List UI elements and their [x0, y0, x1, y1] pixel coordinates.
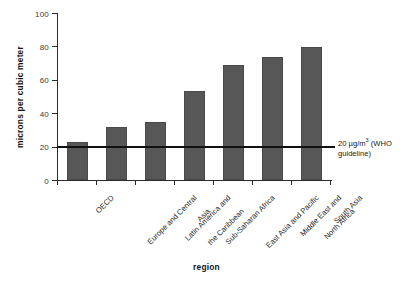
y-tick-label-100: 100	[35, 9, 49, 18]
x-label-oecd: OECD	[87, 187, 122, 222]
y-axis-title-text: microns per cubic meter	[15, 46, 25, 148]
y-tick-label-0: 0	[44, 176, 49, 185]
x-tick-2	[135, 180, 136, 185]
air-quality-bar-chart: microns per cubic meter 0 20 40 60 80 10…	[0, 0, 413, 287]
bar-europe-central-asia	[106, 127, 127, 180]
y-axis-title: microns per cubic meter	[14, 13, 26, 180]
who-guideline-line	[57, 146, 335, 147]
who-guideline-value: 20 µg/m	[338, 139, 366, 148]
y-tick-label-20: 20	[40, 143, 49, 152]
x-axis-title: region	[0, 262, 413, 272]
who-guideline-annotation: 20 µg/m3 (WHO guideline)	[338, 135, 413, 159]
who-guideline-line2: guideline)	[338, 149, 371, 158]
bar-middle-east-north-africa	[262, 57, 283, 180]
x-tick-5	[252, 180, 253, 185]
y-tick-label-60: 60	[40, 76, 49, 85]
bar-east-asia-pacific	[223, 65, 244, 180]
plot-area	[58, 13, 330, 180]
x-tick-3	[174, 180, 175, 185]
x-tick-0	[57, 180, 58, 185]
x-label-oecd-line1: OECD	[94, 194, 116, 216]
x-tick-1	[96, 180, 97, 185]
who-guideline-tail: (WHO	[369, 139, 392, 148]
y-tick-label-80: 80	[40, 42, 49, 51]
bar-sub-saharan-africa	[184, 91, 205, 180]
x-tick-7	[330, 180, 331, 185]
y-tick-label-40: 40	[40, 109, 49, 118]
bar-south-asia	[301, 47, 322, 180]
bar-latin-america-caribbean	[145, 122, 166, 181]
x-tick-6	[291, 180, 292, 185]
x-tick-4	[213, 180, 214, 185]
